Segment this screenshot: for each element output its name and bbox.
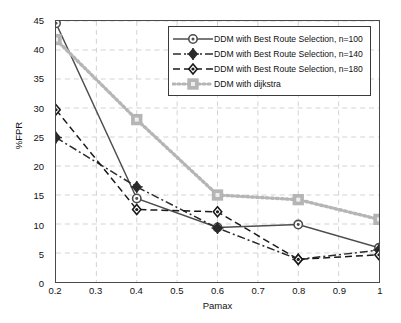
y-tick-label: 35 xyxy=(33,73,44,84)
y-axis-title: %FPR xyxy=(13,96,24,176)
y-tick-label: 0 xyxy=(39,278,44,289)
y-tick-label: 40 xyxy=(33,44,44,55)
legend-item[interactable]: DDM with Best Route Selection, n=140 xyxy=(172,46,366,61)
y-tick-label: 10 xyxy=(33,219,44,230)
y-tick-label: 20 xyxy=(33,161,44,172)
legend-label: DDM with Best Route Selection, n=180 xyxy=(214,62,363,76)
legend-sample-icon xyxy=(172,77,214,91)
y-tick-label: 45 xyxy=(33,15,44,26)
legend-sample-icon xyxy=(172,47,214,61)
marker-square-inner xyxy=(56,38,58,42)
y-tick-label: 5 xyxy=(39,248,44,259)
marker-square-inner xyxy=(296,198,300,202)
x-axis-title: Pamax xyxy=(55,300,380,311)
x-tick-label: 1 xyxy=(377,285,382,296)
legend-sample-icon xyxy=(172,62,214,76)
marker-circle-dot xyxy=(297,223,300,226)
x-tick-label: 0.6 xyxy=(211,285,224,296)
y-tick-label: 25 xyxy=(33,131,44,142)
marker-square-inner xyxy=(377,217,379,221)
legend-sample-icon xyxy=(172,32,214,46)
y-tick-label: 30 xyxy=(33,102,44,113)
marker-diamond-dot xyxy=(191,67,194,70)
marker-square-inner xyxy=(135,118,139,122)
legend-label: DDM with Best Route Selection, n=140 xyxy=(214,47,363,61)
x-tick-label: 0.2 xyxy=(48,285,61,296)
legend-item[interactable]: DDM with Best Route Selection, n=180 xyxy=(172,61,366,76)
marker-diamond-dot xyxy=(135,208,138,211)
x-axis-tick-labels: 0.20.30.40.50.60.70.80.91 xyxy=(55,285,380,301)
marker-circle-dot xyxy=(192,37,195,40)
y-axis-tick-labels: 051015202530354045 xyxy=(0,20,50,283)
marker-square-inner xyxy=(216,193,220,197)
legend-label: DDM with Best Route Selection, n=100 xyxy=(214,32,363,46)
legend-item[interactable]: DDM with Best Route Selection, n=100 xyxy=(172,31,366,46)
x-tick-label: 0.8 xyxy=(292,285,305,296)
marker-circle-dot xyxy=(135,197,138,200)
legend-label: DDM with dijkstra xyxy=(214,77,281,91)
x-tick-label: 0.3 xyxy=(89,285,102,296)
legend-item[interactable]: DDM with dijkstra xyxy=(172,76,366,91)
marker-diamond-dot xyxy=(216,210,219,213)
marker-diamond-dot xyxy=(297,258,300,261)
y-tick-label: 15 xyxy=(33,190,44,201)
x-tick-label: 0.5 xyxy=(170,285,183,296)
x-tick-label: 0.9 xyxy=(333,285,346,296)
x-tick-label: 0.4 xyxy=(130,285,143,296)
marker-square-inner xyxy=(191,82,195,86)
chart-figure: 051015202530354045 %FPR 0.20.30.40.50.60… xyxy=(0,0,401,323)
chart-legend: DDM with Best Route Selection, n=100DDM … xyxy=(168,26,371,96)
x-tick-label: 0.7 xyxy=(252,285,265,296)
